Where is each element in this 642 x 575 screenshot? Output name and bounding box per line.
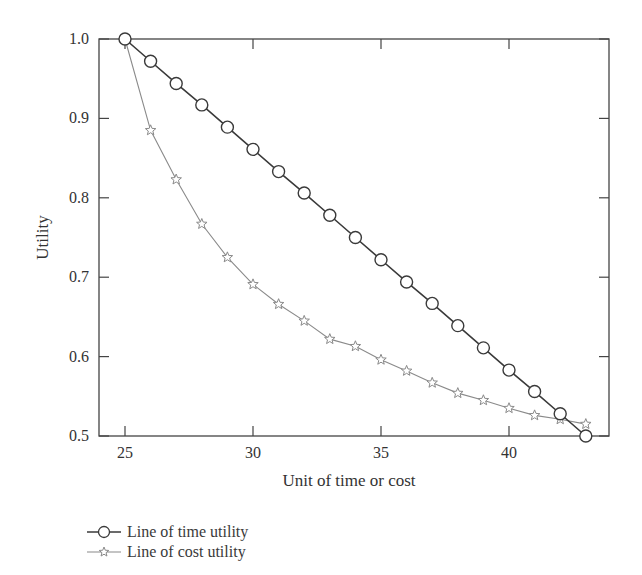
cost-utility-point xyxy=(376,354,386,364)
x-tick-label: 40 xyxy=(501,444,517,461)
time-utility-point xyxy=(375,254,387,266)
cost-utility-point xyxy=(529,410,539,420)
cost-utility-point xyxy=(581,419,591,429)
time-utility-point xyxy=(298,187,310,199)
time-utility-point xyxy=(119,33,131,45)
time-utility-point xyxy=(426,297,438,309)
y-tick-label: 1.0 xyxy=(69,30,89,47)
time-utility-point xyxy=(170,77,182,89)
cost-utility-point xyxy=(504,403,514,413)
legend: Line of time utility Line of cost utilit… xyxy=(87,522,248,562)
legend-label-time: Line of time utility xyxy=(127,523,248,541)
time-utility-point xyxy=(196,99,208,111)
time-utility-point xyxy=(477,342,489,354)
time-utility-point xyxy=(145,55,157,67)
y-tick-label: 0.6 xyxy=(69,348,89,365)
y-tick-label: 0.9 xyxy=(69,109,89,126)
cost-utility-point xyxy=(453,388,463,398)
time-utility-point xyxy=(273,166,285,178)
legend-label-cost: Line of cost utility xyxy=(127,543,246,561)
y-tick-label: 0.7 xyxy=(69,268,89,285)
cost-utility-point xyxy=(401,365,411,375)
y-tick-label: 0.5 xyxy=(69,427,89,444)
time-utility-point xyxy=(401,276,413,288)
time-utility-point xyxy=(247,143,259,155)
cost-utility-point xyxy=(350,341,360,351)
cost-utility-point xyxy=(197,219,207,229)
star-marker-icon xyxy=(87,545,121,559)
x-tick-label: 25 xyxy=(117,444,133,461)
y-tick-label: 0.8 xyxy=(69,189,89,206)
cost-utility-point xyxy=(478,395,488,405)
time-utility-point xyxy=(221,121,233,133)
cost-utility-point xyxy=(145,125,155,135)
cost-utility-point xyxy=(427,377,437,387)
time-utility-point xyxy=(529,386,541,398)
time-utility-point xyxy=(324,209,336,221)
x-axis-label: Unit of time or cost xyxy=(282,471,415,490)
cost-utility-point xyxy=(171,174,181,184)
y-axis-label: Utility xyxy=(33,215,52,260)
circle-marker-icon xyxy=(87,525,121,539)
legend-item-cost: Line of cost utility xyxy=(87,542,248,562)
x-tick-label: 30 xyxy=(245,444,261,461)
time-utility-point xyxy=(503,364,515,376)
time-utility-point xyxy=(554,408,566,420)
x-tick-label: 35 xyxy=(373,444,389,461)
time-utility-point xyxy=(349,232,361,244)
cost-utility-point xyxy=(325,334,335,344)
legend-item-time: Line of time utility xyxy=(87,522,248,542)
chart-canvas: 253035400.50.60.70.80.91.0Unit of time o… xyxy=(0,0,642,520)
time-utility-point xyxy=(452,320,464,332)
time-utility-point xyxy=(580,430,592,442)
